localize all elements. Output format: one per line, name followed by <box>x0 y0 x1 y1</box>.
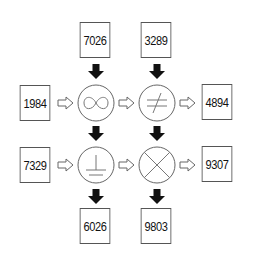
number-label: 6026 <box>84 219 107 234</box>
number-label: 1984 <box>24 96 47 111</box>
number-label: 4894 <box>206 95 229 110</box>
operator-grid-diagram: 7026 3289 1984 7329 4894 9307 6026 9803 <box>0 0 254 256</box>
not-equal-operator <box>139 85 175 121</box>
output-box-bottom-right: 9803 <box>141 208 172 244</box>
right-arrow-icon <box>119 159 134 171</box>
right-arrow-icon <box>58 159 73 171</box>
circled-x-operator <box>139 147 175 183</box>
number-label: 9307 <box>206 157 229 172</box>
number-label: 7329 <box>24 158 47 173</box>
down-arrow-icon <box>149 64 165 79</box>
output-box-right-top: 4894 <box>202 84 233 120</box>
down-arrow-icon <box>149 126 165 141</box>
right-arrow-icon <box>119 97 134 109</box>
down-arrow-icon <box>88 189 104 204</box>
input-box-top-right: 3289 <box>141 22 172 58</box>
right-arrow-icon <box>180 97 195 109</box>
right-arrow-icon <box>180 159 195 171</box>
right-arrow-icon <box>58 97 73 109</box>
number-label: 7026 <box>84 33 107 48</box>
infinity-operator <box>78 85 114 121</box>
down-arrow-icon <box>88 64 104 79</box>
number-label: 3289 <box>145 33 168 48</box>
input-box-left-top: 1984 <box>20 85 51 121</box>
output-box-right-bottom: 9307 <box>202 146 233 182</box>
down-arrow-icon <box>88 126 104 141</box>
perpendicular-operator <box>78 147 114 183</box>
input-box-left-bottom: 7329 <box>20 147 51 183</box>
diagram-graphics <box>0 0 254 256</box>
number-label: 9803 <box>145 219 168 234</box>
input-box-top-left: 7026 <box>80 22 111 58</box>
down-arrow-icon <box>149 189 165 204</box>
output-box-bottom-left: 6026 <box>80 208 111 244</box>
